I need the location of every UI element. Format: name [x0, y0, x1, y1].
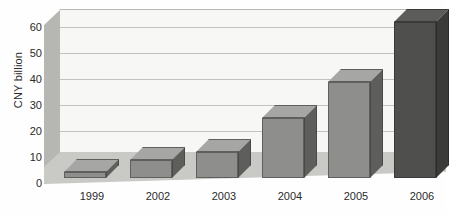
y-tick-label: 30 [30, 100, 42, 110]
bar-front-face [262, 118, 304, 178]
bar-front-face [328, 82, 370, 178]
x-tick-label-2004: 2004 [260, 190, 320, 202]
x-tick-label-1999: 1999 [62, 190, 122, 202]
x-tick-label-2002: 2002 [128, 190, 188, 202]
bar-side-face [370, 69, 383, 178]
bar-front-face [64, 172, 106, 178]
plot-area [44, 0, 446, 214]
gridline-30 [60, 105, 446, 106]
bar-1999 [64, 172, 106, 178]
x-tick-label-2006: 2006 [392, 190, 452, 202]
x-tick-label-2005: 2005 [326, 190, 386, 202]
gridline-40 [60, 79, 446, 80]
bar-2004 [262, 118, 304, 178]
bar-front-face [130, 160, 172, 178]
y-tick-label: 10 [30, 152, 42, 162]
bar-front-face [394, 22, 436, 178]
gridline-60 [60, 27, 446, 28]
bar-2006 [394, 22, 436, 178]
chart-back-wall [60, 9, 446, 162]
chart-left-wall [44, 9, 61, 177]
x-tick-label-2003: 2003 [194, 190, 254, 202]
bar-front-face [196, 152, 238, 178]
y-tick-label: 20 [30, 126, 42, 136]
y-tick-label: 50 [30, 48, 42, 58]
gridline-50 [60, 53, 446, 54]
bar-2005 [328, 82, 370, 178]
y-tick-label: 0 [36, 178, 42, 188]
bar-2003 [196, 152, 238, 178]
y-tick-label: 60 [30, 22, 42, 32]
y-tick-label: 40 [30, 74, 42, 84]
y-axis-tick-labels: 60 50 40 30 20 10 0 [0, 0, 44, 214]
gridline-20 [60, 131, 446, 132]
bar-side-face [436, 9, 449, 178]
bar-2002 [130, 160, 172, 178]
